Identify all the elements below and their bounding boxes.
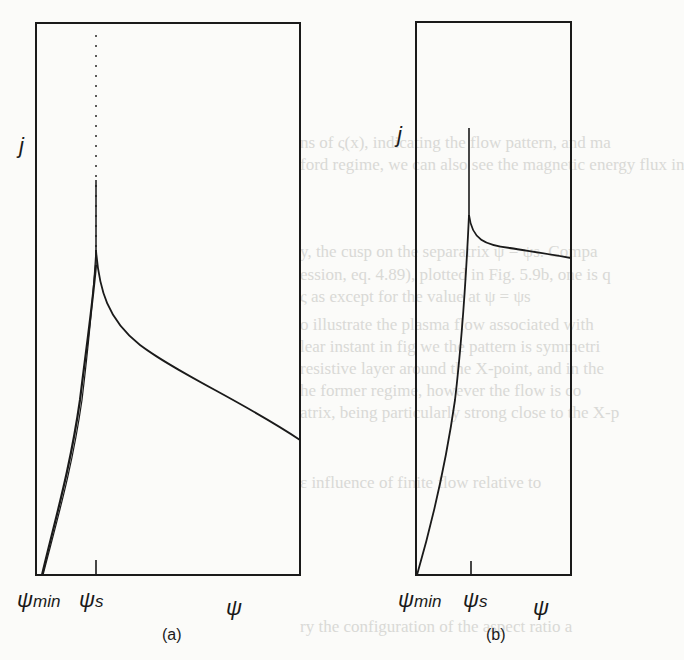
panel-b-x-axis-label: ψ [533, 597, 549, 619]
panel-b-frame [416, 22, 571, 575]
panel-b-decaying-branch [469, 215, 571, 258]
panel-b-rising-branch [417, 215, 469, 575]
panel-b-y-axis-label: j [397, 124, 402, 146]
panel-a-frame [36, 23, 300, 575]
panel-a-decaying-branch [96, 250, 300, 440]
panel-a-y-axis-label: j [19, 135, 24, 157]
panel-a-psi-s-label: ψs [79, 589, 104, 611]
panel-b-caption: (b) [486, 627, 506, 643]
panel-a-caption: (a) [162, 627, 182, 643]
panel-a-psi-min-label: ψmin [17, 589, 60, 611]
panel-b-psi-min-label: ψmin [398, 589, 441, 611]
panel-a-x-axis-label: ψ [226, 597, 242, 619]
panel-b-psi-s-label: ψs [463, 589, 488, 611]
panel-a-rising-branch-edge [43, 250, 96, 575]
panel-a-rising-branch [42, 265, 96, 575]
